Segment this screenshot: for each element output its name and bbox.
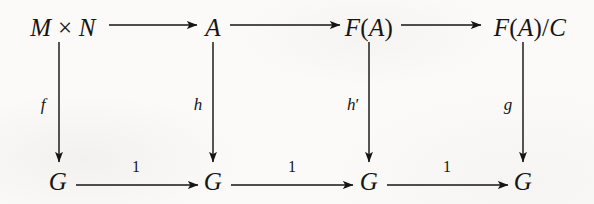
diagram-arrow-label-a-bot-1: 1 xyxy=(132,159,140,175)
diagram-arrow-label-a-bot-3: 1 xyxy=(443,159,451,175)
diagram-arrow-label-a-mid-hp: h′ xyxy=(347,96,359,113)
diagram-arrow-label-a-bot-2: 1 xyxy=(288,159,296,175)
diagram-arrow-label-a-right-g: g xyxy=(504,96,513,113)
commutative-diagram-figure: M × NAF(A)F(A)/CGGGG fhh′g111 xyxy=(0,0,594,204)
diagram-arrow-label-a-left-f: f xyxy=(41,96,46,113)
diagram-arrow-label-a-mid-h: h xyxy=(194,96,203,113)
diagram-arrow-label-layer: fhh′g111 xyxy=(0,0,594,204)
